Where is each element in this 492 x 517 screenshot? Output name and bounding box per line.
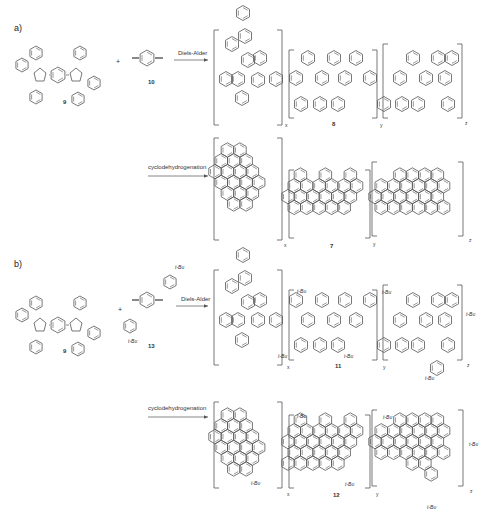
tbu-label-12-f: t-Bu bbox=[427, 504, 436, 510]
repeat-y-b12: y bbox=[376, 491, 379, 497]
reaction-scheme-drawing bbox=[0, 0, 492, 517]
compound-12-label: 12 bbox=[333, 492, 340, 498]
repeat-z-b11: z bbox=[467, 362, 470, 368]
repeat-x-b11: x bbox=[287, 364, 290, 370]
compound-9-label-b: 9 bbox=[63, 348, 66, 354]
repeat-x-a7: x bbox=[284, 242, 287, 248]
tbu-label-11-b: t-Bu bbox=[382, 289, 391, 295]
compound-8-label: 8 bbox=[332, 121, 335, 127]
tbu-label-11-d: t-Bu bbox=[278, 353, 287, 359]
panel-a-label: a) bbox=[14, 23, 22, 33]
tbu-label-12-a: t-Bu bbox=[297, 413, 306, 419]
diels-alder-label-b: Diels-Alder bbox=[181, 296, 210, 302]
repeat-y-b11: y bbox=[383, 364, 386, 370]
tbu-label-12-e: t-Bu bbox=[345, 481, 354, 487]
diels-alder-label-a: Diels-Alder bbox=[178, 50, 207, 56]
tbu-label-12-d: t-Bu bbox=[251, 480, 260, 486]
repeat-z-b12: z bbox=[470, 488, 473, 494]
repeat-z-a7: z bbox=[469, 237, 472, 243]
compound-13-label: 13 bbox=[148, 343, 155, 349]
cyclodehydrogenation-label-b: cyclodehydrogenation bbox=[148, 405, 206, 411]
repeat-x-a8: x bbox=[285, 122, 288, 128]
compound-10-label: 10 bbox=[148, 79, 155, 85]
compound-7-label: 7 bbox=[330, 243, 333, 249]
tbu-label-12-b: t-Bu bbox=[383, 414, 392, 420]
tbu-label-11-c: t-Bu bbox=[466, 311, 475, 317]
plus-sign-a: + bbox=[116, 58, 120, 65]
compound-9-label-a: 9 bbox=[63, 99, 66, 105]
compound-11-label: 11 bbox=[335, 363, 341, 369]
tbu-label-13-bottom: t-Bu bbox=[128, 338, 137, 344]
repeat-y-a7: y bbox=[373, 241, 376, 247]
tbu-label-11-a: t-Bu bbox=[297, 288, 306, 294]
tbu-label-11-f: t-Bu bbox=[425, 375, 434, 381]
repeat-z-a8: z bbox=[465, 120, 468, 126]
tbu-label-12-c: t-Bu bbox=[469, 441, 478, 447]
tbu-label-13-top: t-Bu bbox=[175, 264, 184, 270]
cyclodehydrogenation-label-a: cyclodehydrogenation bbox=[148, 164, 206, 170]
repeat-x-b12: x bbox=[287, 491, 290, 497]
repeat-y-a8: y bbox=[380, 122, 383, 128]
panel-b-label: b) bbox=[14, 259, 22, 269]
plus-sign-b: + bbox=[118, 306, 122, 313]
tbu-label-11-e: t-Bu bbox=[344, 353, 353, 359]
